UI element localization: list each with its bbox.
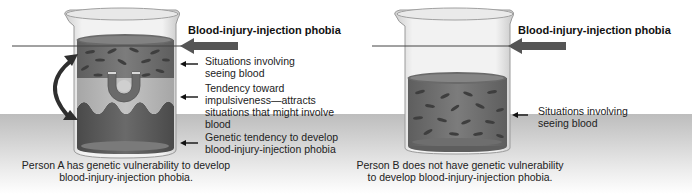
label-genetic-tendency-a: Genetic tendency to develop blood-injury… (205, 131, 338, 155)
thick-left-arrow-icon-b (508, 38, 566, 54)
left-arrow-icons-a (182, 64, 198, 143)
thick-left-arrow-icon-a (180, 38, 238, 54)
label-blood-situations-b: Situations involving seeing blood (538, 105, 628, 129)
beaker-b (372, 8, 514, 154)
beaker-a (12, 8, 186, 158)
label-impulsiveness-a: Tendency toward impulsiveness—attracts s… (205, 82, 334, 130)
caption-person-a: Person A has genetic vulnerability to de… (16, 159, 236, 183)
phobia-threshold-title-a: Blood-injury-injection phobia (188, 24, 341, 36)
label-blood-situations-a: Situations involving seeing blood (205, 55, 295, 79)
left-arrow-icon-b (512, 112, 528, 118)
caption-person-b: Person B does not have genetic vulnerabi… (350, 159, 570, 183)
phobia-threshold-title-b: Blood-injury-injection phobia (518, 24, 671, 36)
